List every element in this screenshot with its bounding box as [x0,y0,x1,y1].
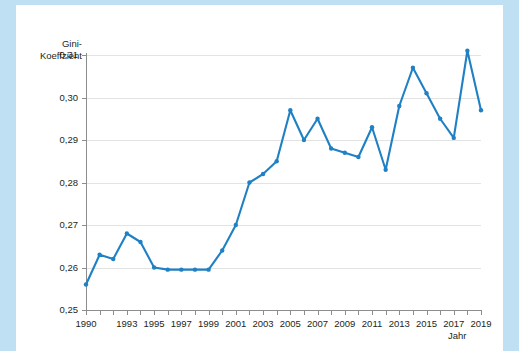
data-point [370,125,374,129]
data-point [288,108,292,112]
figure-sheet: Gini- Koeffzient Jahr 0,310,300,290,280,… [16,5,503,351]
y-tick-mark [82,140,86,141]
data-point [274,159,278,163]
data-point [179,267,183,271]
x-tick-label: 2007 [303,318,333,329]
x-tick-mark [467,311,468,315]
y-tick-label: 0,28 [40,177,78,188]
x-tick-mark [140,311,141,315]
data-point [479,108,483,112]
data-point [315,117,319,121]
x-tick-mark [481,311,482,315]
x-tick-mark [427,311,428,315]
x-tick-mark [440,311,441,315]
x-tick-label: 2003 [248,318,278,329]
x-tick-mark [413,311,414,315]
x-tick-mark [86,311,87,315]
x-tick-label: 1997 [166,318,196,329]
y-tick-mark [82,268,86,269]
data-point [138,240,142,244]
data-point [206,267,210,271]
data-point [329,146,333,150]
x-tick-label: 2009 [330,318,360,329]
x-tick-label: 1995 [139,318,169,329]
x-tick-mark [168,311,169,315]
data-point [261,172,265,176]
data-point [411,66,415,70]
x-tick-label: 2005 [275,318,305,329]
gini-series-markers [84,49,483,287]
x-tick-mark [358,311,359,315]
data-point [356,155,360,159]
x-tick-mark [127,311,128,315]
y-tick-mark [82,55,86,56]
x-tick-mark [454,311,455,315]
x-tick-label: 2013 [384,318,414,329]
data-point [397,104,401,108]
x-tick-mark [154,311,155,315]
y-tick-label: 0,25 [40,304,78,315]
x-tick-mark [331,311,332,315]
data-point [424,91,428,95]
x-tick-label: 2011 [357,318,387,329]
x-tick-mark [290,311,291,315]
x-tick-mark [249,311,250,315]
data-point [84,282,88,286]
y-tick-mark [82,225,86,226]
x-tick-label: 2019 [466,318,496,329]
x-tick-label: 2015 [412,318,442,329]
x-tick-mark [277,311,278,315]
x-tick-label: 2001 [221,318,251,329]
y-tick-label: 0,31 [40,49,78,60]
data-point [383,168,387,172]
data-point [465,49,469,53]
x-tick-mark [386,311,387,315]
data-point [111,257,115,261]
data-point [166,267,170,271]
y-tick-label: 0,27 [40,219,78,230]
data-point [452,136,456,140]
data-point [438,117,442,121]
x-tick-mark [263,311,264,315]
y-tick-label: 0,26 [40,262,78,273]
x-tick-mark [304,311,305,315]
data-point [193,267,197,271]
x-tick-mark [113,311,114,315]
y-tick-mark [82,183,86,184]
y-tick-label: 0,30 [40,92,78,103]
data-point [220,248,224,252]
data-point [97,253,101,257]
data-point [152,265,156,269]
page-background: Gini- Koeffzient Jahr 0,310,300,290,280,… [0,0,519,351]
x-tick-mark [100,311,101,315]
series-layer [16,5,503,351]
x-tick-label: 1990 [71,318,101,329]
x-tick-mark [181,311,182,315]
x-tick-mark [372,311,373,315]
x-tick-mark [195,311,196,315]
data-point [302,138,306,142]
x-tick-mark [318,311,319,315]
x-tick-mark [345,311,346,315]
data-point [234,223,238,227]
line-chart: Gini- Koeffzient Jahr 0,310,300,290,280,… [16,5,503,351]
data-point [125,231,129,235]
x-tick-label: 1993 [112,318,142,329]
data-point [343,151,347,155]
y-tick-mark [82,98,86,99]
x-tick-mark [236,311,237,315]
x-tick-mark [209,311,210,315]
data-point [247,180,251,184]
x-tick-label: 2017 [439,318,469,329]
gini-series-line [86,51,481,285]
x-tick-label: 1999 [194,318,224,329]
x-tick-mark [222,311,223,315]
y-tick-label: 0,29 [40,134,78,145]
x-tick-mark [399,311,400,315]
